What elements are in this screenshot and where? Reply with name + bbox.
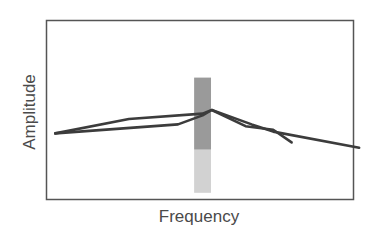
band-lower-segment (194, 150, 211, 193)
plot-area (47, 21, 360, 200)
highlight-band (194, 78, 211, 193)
x-axis-label: Frequency (159, 207, 240, 226)
line-chart: Frequency Amplitude (0, 0, 369, 237)
y-axis-label: Amplitude (20, 74, 39, 150)
